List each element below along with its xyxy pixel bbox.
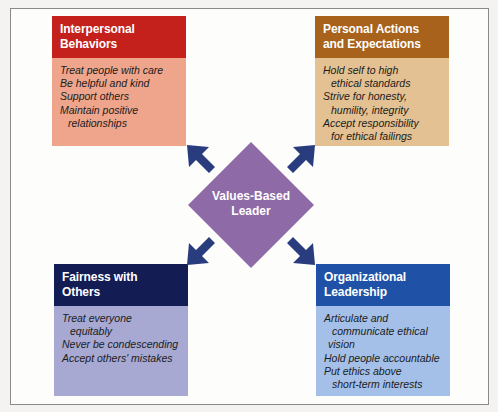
box-header: Organizational Leadership	[316, 264, 450, 306]
list-item: Strive for honesty,	[323, 90, 441, 103]
list-item: communicate ethical	[324, 325, 442, 338]
box-title: Interpersonal	[60, 22, 178, 37]
list-item: short-term interests	[324, 378, 442, 391]
list-item: Articulate and	[324, 312, 442, 325]
list-item: Support others	[60, 90, 178, 103]
arrow-up-left-icon	[187, 145, 219, 177]
box-body: Treat everyone equitably Never be condes…	[54, 306, 188, 371]
personal-actions-box: Personal Actions and Expectations Hold s…	[315, 16, 449, 146]
box-body: Articulate and communicate ethical visio…	[316, 306, 450, 397]
arrow-down-right-icon	[283, 233, 315, 265]
list-item: Hold self to high	[323, 64, 441, 77]
box-title: Behaviors	[60, 37, 178, 52]
arrow-down-left-icon	[187, 233, 219, 265]
list-item: for ethical failings	[323, 130, 441, 143]
list-item: relationships	[60, 117, 178, 130]
arrow-up-right-icon	[283, 145, 315, 177]
box-title: and Expectations	[323, 37, 441, 52]
box-title: Others	[62, 285, 180, 300]
list-item: Treat everyone	[62, 312, 180, 325]
list-item: Accept responsibility	[323, 117, 441, 130]
interpersonal-behaviors-box: Interpersonal Behaviors Treat people wit…	[52, 16, 186, 146]
list-item: ethical standards	[323, 77, 441, 90]
organizational-leadership-box: Organizational Leadership Articulate and…	[316, 264, 450, 396]
list-item: equitably	[62, 325, 180, 338]
list-item: humility, integrity	[323, 104, 441, 117]
list-item: Be helpful and kind	[60, 77, 178, 90]
list-item: Treat people with care	[60, 64, 178, 77]
box-title: Leadership	[324, 285, 442, 300]
center-label: Values-Based Leader	[188, 189, 314, 219]
list-item: Accept others' mistakes	[62, 352, 180, 365]
list-item: Put ethics above	[324, 365, 442, 378]
list-item: Maintain positive	[60, 104, 178, 117]
box-header: Personal Actions and Expectations	[315, 16, 449, 58]
box-header: Fairness with Others	[54, 264, 188, 306]
box-body: Hold self to high ethical standards Stri…	[315, 58, 449, 149]
box-header: Interpersonal Behaviors	[52, 16, 186, 58]
box-title: Organizational	[324, 270, 442, 285]
box-body: Treat people with care Be helpful and ki…	[52, 58, 186, 136]
list-item: Never be condescending	[62, 338, 180, 351]
list-item: vision	[324, 338, 442, 351]
box-title: Personal Actions	[323, 22, 441, 37]
list-item: Hold people accountable	[324, 352, 442, 365]
box-title: Fairness with	[62, 270, 180, 285]
fairness-box: Fairness with Others Treat everyone equi…	[54, 264, 188, 396]
